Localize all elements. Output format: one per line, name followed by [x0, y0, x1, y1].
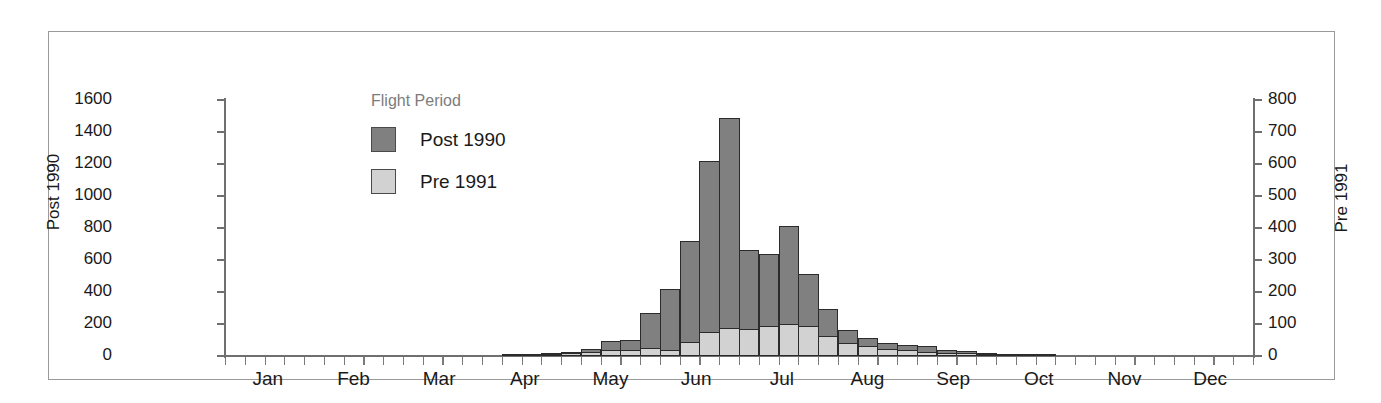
- bar-pre-1991: [502, 354, 522, 356]
- x-axis-tick: [877, 357, 878, 365]
- x-axis-tick: [1213, 357, 1214, 365]
- x-axis-tick: [1154, 357, 1155, 365]
- x-axis-tick: [1253, 357, 1254, 365]
- left-axis-tick: [217, 355, 224, 357]
- left-axis-tick-label: 200: [84, 313, 112, 333]
- x-axis-tick: [917, 357, 918, 365]
- x-axis-tick: [680, 357, 681, 365]
- left-axis-tick-label: 1400: [74, 121, 112, 141]
- bar-pre-1991: [818, 336, 838, 356]
- bar-pre-1991: [996, 354, 1016, 356]
- x-axis-month-label: Mar: [423, 368, 456, 390]
- bar-pre-1991: [858, 346, 878, 356]
- x-axis-tick: [798, 357, 799, 365]
- left-axis-tick: [217, 227, 224, 229]
- bar-pre-1991: [660, 350, 680, 356]
- x-axis-tick: [1134, 357, 1135, 365]
- bar-pre-1991: [719, 328, 739, 356]
- right-axis-tick-label: 200: [1268, 281, 1296, 301]
- x-axis-tick: [818, 357, 819, 365]
- left-axis-tick-label: 1000: [74, 185, 112, 205]
- left-axis-title: Post 1990: [44, 154, 64, 231]
- left-axis-tick-label: 0: [103, 345, 112, 365]
- right-axis-tick: [1255, 131, 1262, 133]
- bar-pre-1991: [541, 354, 561, 356]
- x-axis-month-label: Apr: [510, 368, 540, 390]
- x-axis-tick: [284, 357, 285, 365]
- right-axis-tick: [1255, 163, 1262, 165]
- left-axis-tick: [217, 131, 224, 133]
- x-axis-tick: [383, 357, 384, 365]
- left-axis-tick-label: 400: [84, 281, 112, 301]
- x-axis-tick: [442, 357, 443, 365]
- x-axis-tick: [245, 357, 246, 365]
- x-axis-month-label: Aug: [851, 368, 885, 390]
- x-axis-tick: [324, 357, 325, 365]
- x-axis-tick: [363, 357, 364, 365]
- bar-pre-1991: [838, 343, 858, 356]
- legend-label-post-1990: Post 1990: [420, 129, 506, 151]
- x-axis-tick: [996, 357, 997, 365]
- x-axis-tick: [759, 357, 760, 365]
- legend-item-pre-1991: Pre 1991: [371, 169, 506, 194]
- right-axis-tick-label: 500: [1268, 185, 1296, 205]
- x-axis-month-label: Sep: [936, 368, 970, 390]
- left-axis-tick-label: 800: [84, 217, 112, 237]
- x-axis-month-label: Dec: [1193, 368, 1227, 390]
- bar-pre-1991: [601, 350, 621, 356]
- right-axis-tick: [1255, 323, 1262, 325]
- x-axis-tick: [265, 357, 266, 365]
- left-axis-tick-label: 1600: [74, 89, 112, 109]
- bar-pre-1991: [897, 350, 917, 356]
- bar-pre-1991: [798, 326, 818, 356]
- legend-swatch-post-1990: [371, 127, 396, 152]
- x-axis-month-label: Jun: [681, 368, 712, 390]
- right-axis-tick: [1255, 99, 1262, 101]
- chart-legend: Flight Period Post 1990 Pre 1991: [371, 92, 506, 211]
- bar-post-1990: [680, 241, 700, 356]
- bar-pre-1991: [937, 353, 957, 356]
- x-axis-tick: [1115, 357, 1116, 365]
- x-axis-tick: [897, 357, 898, 365]
- x-axis-month-label: Feb: [337, 368, 370, 390]
- chart-frame: Post 1990 Pre 1991 020040060080010001200…: [48, 31, 1335, 380]
- right-axis-tick-label: 800: [1268, 89, 1296, 109]
- right-axis-tick: [1255, 195, 1262, 197]
- x-axis-tick: [779, 357, 780, 365]
- bar-pre-1991: [1016, 354, 1036, 356]
- bar-post-1990: [719, 118, 739, 356]
- bar-pre-1991: [877, 349, 897, 356]
- x-axis-tick: [403, 357, 404, 365]
- right-axis-tick-label: 700: [1268, 121, 1296, 141]
- x-axis-tick: [225, 357, 226, 365]
- x-axis-tick: [838, 357, 839, 365]
- bar-pre-1991: [640, 348, 660, 356]
- right-axis-tick: [1255, 355, 1262, 357]
- bar-pre-1991: [759, 326, 779, 356]
- x-axis-tick: [660, 357, 661, 365]
- bar-pre-1991: [976, 354, 996, 356]
- left-axis-tick: [217, 195, 224, 197]
- bar-pre-1991: [739, 329, 759, 356]
- x-axis-tick: [640, 357, 641, 365]
- x-axis-tick: [699, 357, 700, 365]
- right-axis-tick-label: 300: [1268, 249, 1296, 269]
- left-axis-tick: [217, 291, 224, 293]
- x-axis-tick: [423, 357, 424, 365]
- left-axis-tick-label: 600: [84, 249, 112, 269]
- x-axis-tick: [1233, 357, 1234, 365]
- x-axis-tick: [581, 357, 582, 365]
- left-axis-tick: [217, 323, 224, 325]
- bar-pre-1991: [620, 350, 640, 356]
- bar-pre-1991: [956, 353, 976, 356]
- x-axis-tick: [502, 357, 503, 365]
- right-axis-tick: [1255, 227, 1262, 229]
- x-axis-tick: [482, 357, 483, 365]
- right-axis-tick-label: 100: [1268, 313, 1296, 333]
- x-axis-tick: [739, 357, 740, 365]
- x-axis-tick: [601, 357, 602, 365]
- bar-pre-1991: [917, 352, 937, 356]
- x-axis-tick: [937, 357, 938, 365]
- legend-item-post-1990: Post 1990: [371, 127, 506, 152]
- left-axis-tick: [217, 163, 224, 165]
